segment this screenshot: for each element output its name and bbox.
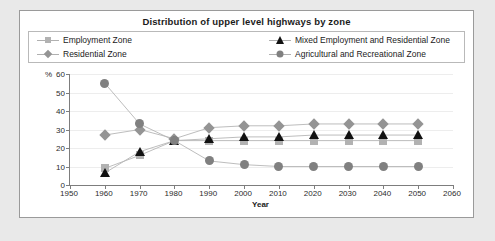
x-tick-label: 2040 [373,189,391,198]
y-tick-label: 20 [43,144,65,153]
x-tick-label: 2060 [443,189,461,198]
data-point-triangle [344,130,354,139]
data-point-circle [379,162,388,171]
chart-title: Distribution of upper level highways by … [20,16,473,27]
legend-marker-circle-icon [269,50,291,59]
data-point-triangle [413,130,423,139]
data-point-circle [414,162,423,171]
plot-area-wrapper: % 0102030405060 195019601970198019902000… [20,67,475,217]
x-tick-label: 1950 [60,189,78,198]
x-tick-label: 2020 [304,189,322,198]
legend-item-agricultural-recreational-zone: Agricultural and Recreational Zone [269,49,426,59]
chart-container: Distribution of upper level highways by … [19,10,474,218]
data-point-circle [170,136,179,145]
x-tick-label: 2000 [234,189,252,198]
legend-marker-diamond-icon [37,50,59,59]
data-point-triangle [378,130,388,139]
x-tick-label: 2050 [408,189,426,198]
legend-marker-triangle-icon [269,36,291,45]
x-tick-label: 1970 [130,189,148,198]
x-axis-title: Year [69,200,452,209]
data-point-triangle [309,130,319,139]
legend-item-employment-zone: Employment Zone [37,35,132,45]
y-tick-label: 50 [43,88,65,97]
legend-item-mixed-employment-residential-zone: Mixed Employment and Residential Zone [269,35,450,45]
data-point-circle [344,162,353,171]
y-tick-label: 60 [43,70,65,79]
data-point-triangle [274,132,284,141]
plot-area [69,74,453,186]
legend-item-residential-zone: Residential Zone [37,49,127,59]
y-tick-label: 30 [43,125,65,134]
x-tick-label: 1990 [199,189,217,198]
y-tick-label: 40 [43,107,65,116]
data-point-triangle [100,168,110,177]
x-tick-label: 2010 [269,189,287,198]
chart-legend: Employment Zone Residential Zone Mixed E… [28,31,465,63]
y-tick-label: 10 [43,162,65,171]
legend-label: Residential Zone [63,49,127,59]
data-point-triangle [204,134,214,143]
data-point-triangle [239,132,249,141]
legend-marker-square-icon [37,36,59,45]
series-lines [70,74,453,185]
x-tick-label: 2030 [339,189,357,198]
legend-label: Mixed Employment and Residential Zone [295,35,450,45]
legend-label: Employment Zone [63,35,132,45]
legend-label: Agricultural and Recreational Zone [295,49,426,59]
x-tick-label: 1960 [95,189,113,198]
data-point-circle [240,160,249,169]
x-tick-label: 1980 [165,189,183,198]
data-point-triangle [135,147,145,156]
